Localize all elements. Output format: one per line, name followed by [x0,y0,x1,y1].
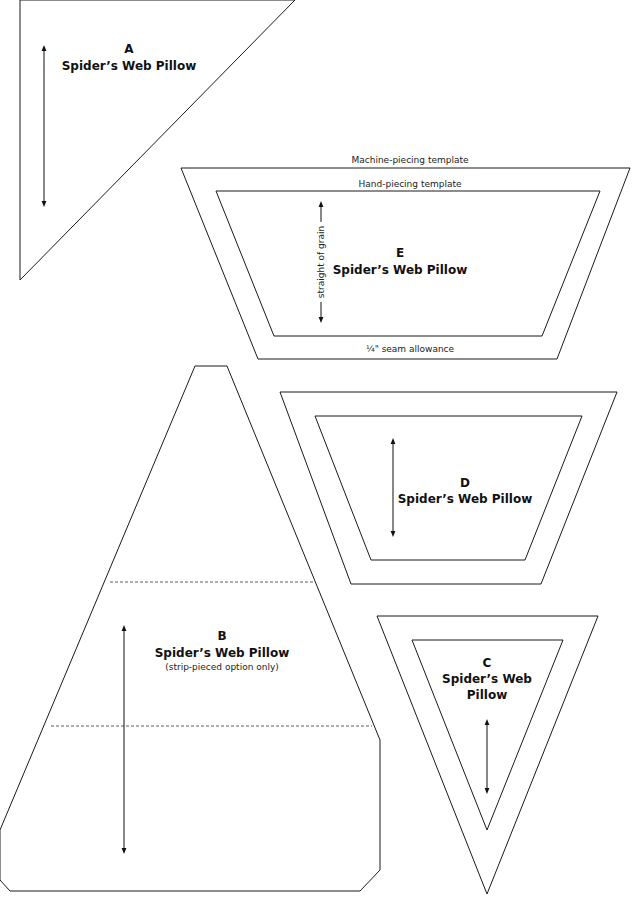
template-c-name-line1: Spider’s Web [442,672,532,686]
template-a-letter: A [124,42,134,56]
template-d-machine-outline [280,392,617,584]
template-e-letter: E [396,246,404,260]
template-b-note: (strip-pieced option only) [165,662,279,672]
straight-of-grain-label: straight of grain [316,226,326,298]
template-b: B Spider’s Web Pillow (strip-pieced opti… [0,366,380,891]
template-sheet: A Spider’s Web Pillow Machine-piecing te… [0,0,637,903]
template-b-name: Spider’s Web Pillow [155,646,290,660]
template-a-name: Spider’s Web Pillow [62,59,197,73]
template-a-outline [20,0,295,280]
template-e: Machine-piecing template Hand-piecing te… [181,155,630,359]
seam-allowance-label: ¼" seam allowance [366,344,455,354]
template-c-name-line2: Pillow [467,688,507,702]
template-a: A Spider’s Web Pillow [20,0,295,280]
template-d: D Spider’s Web Pillow [280,392,617,584]
template-d-name: Spider’s Web Pillow [398,492,533,506]
template-b-outline [0,366,380,891]
template-e-name: Spider’s Web Pillow [333,263,468,277]
template-b-letter: B [217,629,226,643]
template-c: C Spider’s Web Pillow [377,616,598,894]
template-c-letter: C [483,656,492,670]
template-d-letter: D [460,476,470,490]
machine-piecing-label: Machine-piecing template [351,155,468,165]
template-d-hand-outline [315,416,582,560]
hand-piecing-label: Hand-piecing template [358,179,462,189]
